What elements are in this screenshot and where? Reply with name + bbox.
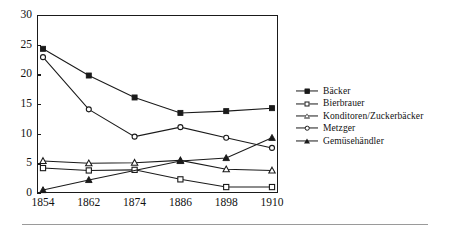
data-point-filled-triangle [269, 134, 276, 140]
series-line [43, 138, 272, 190]
series-line [43, 49, 272, 113]
legend-item[interactable]: Konditoren/Zuckerbäcker [296, 110, 423, 122]
legend-item-label: Bäcker [323, 85, 351, 97]
legend-marker-open-square-icon [296, 97, 318, 109]
legend-marker-open-diamond-icon [296, 122, 318, 134]
data-point-filled-square [178, 110, 183, 115]
data-point-filled-square [132, 95, 137, 100]
data-point-open-square [40, 165, 45, 170]
legend-marker-glyph [305, 101, 310, 106]
chart-legend: BäckerBierbrauerKonditoren/ZuckerbäckerM… [296, 85, 423, 147]
data-point-open-square [178, 177, 183, 182]
data-point-open-diamond [86, 107, 91, 112]
bottom-divider [22, 224, 428, 225]
series-line [43, 57, 272, 148]
legend-marker-glyph [304, 113, 310, 118]
data-point-filled-square [270, 106, 275, 111]
chart-figure: 302520151050 185418621874188618981910 Bä… [0, 0, 450, 234]
data-point-open-diamond [132, 134, 137, 139]
data-point-open-diamond [270, 145, 275, 150]
data-point-open-diamond [41, 55, 46, 60]
legend-item[interactable]: Bierbrauer [296, 97, 423, 109]
data-point-filled-square [41, 46, 46, 51]
series-line [43, 168, 272, 187]
data-point-open-diamond [178, 125, 183, 130]
legend-marker-glyph [305, 126, 310, 131]
legend-marker-glyph [304, 138, 310, 143]
legend-item[interactable]: Bäcker [296, 85, 423, 97]
series-b-cker [41, 46, 275, 115]
series-metzger [41, 55, 275, 151]
data-point-filled-square [224, 109, 229, 114]
legend-item-label: Bierbrauer [323, 97, 365, 109]
legend-item-label: Konditoren/Zuckerbäcker [323, 110, 423, 122]
series-konditoren-zuckerb-cker [40, 157, 275, 173]
legend-item-label: Gemüsehändler [323, 135, 384, 147]
legend-marker-filled-square-icon [296, 85, 318, 97]
data-point-filled-square [86, 73, 91, 78]
data-point-open-square [269, 184, 274, 189]
legend-marker-open-triangle-icon [296, 110, 318, 122]
legend-item-label: Metzger [323, 122, 355, 134]
data-point-filled-triangle [223, 155, 230, 161]
legend-item[interactable]: Gemüsehändler [296, 135, 423, 147]
legend-item[interactable]: Metzger [296, 122, 423, 134]
data-point-open-square [86, 168, 91, 173]
data-point-open-diamond [224, 135, 229, 140]
series-gem-seh-ndler [40, 134, 276, 192]
data-point-open-square [224, 184, 229, 189]
legend-marker-glyph [305, 89, 310, 94]
legend-marker-filled-triangle-icon [296, 135, 318, 147]
